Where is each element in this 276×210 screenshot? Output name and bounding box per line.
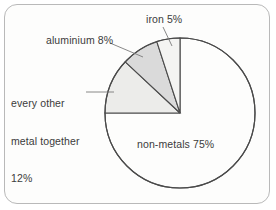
pie-chart-figure: iron 5% aluminium 8% every other metal t… [0, 0, 276, 210]
slice-label-every-other-metal-line2: metal together [11, 135, 80, 148]
slice-label-every-other-metal-line3: 12% [11, 172, 80, 185]
slice-label-every-other-metal: every other metal together 12% [11, 72, 80, 210]
slice-label-aluminium: aluminium 8% [46, 34, 113, 47]
slice-label-iron: iron 5% [146, 13, 182, 26]
slice-label-non-metals: non-metals 75% [137, 138, 214, 151]
leader-line-aluminium [110, 43, 143, 57]
slice-label-every-other-metal-line1: every other [11, 97, 80, 110]
